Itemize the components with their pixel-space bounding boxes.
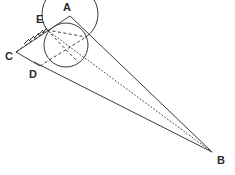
vertex-label-a: A <box>63 2 71 13</box>
inscribed-circle <box>44 23 88 67</box>
line-A-B <box>70 16 212 152</box>
geometry-canvas <box>0 0 235 175</box>
vertex-label-e: E <box>36 14 43 25</box>
geometry-figure: A E C D B <box>0 0 235 175</box>
vertex-label-d: D <box>29 69 37 80</box>
line-C-D <box>16 52 40 66</box>
angle-hatching-at-E <box>24 28 47 44</box>
chord-D-T <box>40 37 86 66</box>
line-D-B <box>34 62 212 152</box>
line-E-B <box>47 30 212 152</box>
vertex-label-c: C <box>5 51 13 62</box>
chord-E-K <box>47 30 78 62</box>
vertex-label-b: B <box>217 155 225 166</box>
